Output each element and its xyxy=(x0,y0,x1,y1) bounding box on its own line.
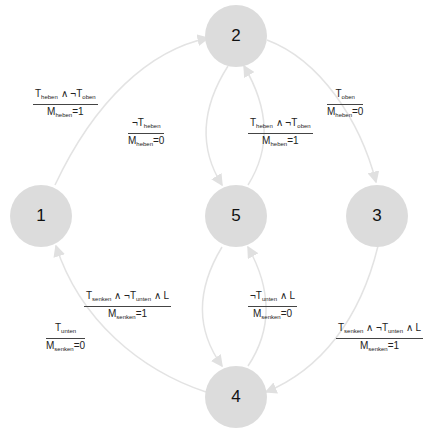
node-label: 3 xyxy=(372,206,381,226)
state-node-2[interactable]: 2 xyxy=(205,5,267,67)
edge-label-5-4: Tsenken ∧ ¬Tunten ∧ L Msenken=1 xyxy=(84,290,171,323)
state-node-3[interactable]: 3 xyxy=(346,185,408,247)
node-label: 5 xyxy=(231,206,240,226)
node-label: 4 xyxy=(231,387,240,407)
state-node-1[interactable]: 1 xyxy=(10,185,72,247)
edge-5-4 xyxy=(203,247,223,366)
edge-label-4-5: ¬Tunten ∧ L Msenken=0 xyxy=(248,290,297,323)
edge-label-2-5: ¬Theben Mheben=0 xyxy=(128,117,164,150)
node-label: 2 xyxy=(231,26,240,46)
state-node-5[interactable]: 5 xyxy=(205,185,267,247)
edge-label-2-3: Toben Mheben=0 xyxy=(327,88,363,121)
edge-label-3-4: Tsenken ∧ ¬Tunten ∧ L Msenken=1 xyxy=(336,322,423,355)
edge-label-5-2: Theben ∧ ¬Toben Mheben=1 xyxy=(248,117,313,150)
edge-2-5 xyxy=(206,66,228,185)
node-label: 1 xyxy=(36,206,45,226)
state-node-4[interactable]: 4 xyxy=(205,366,267,428)
edge-label-4-1: Tunten Msenken=0 xyxy=(46,322,85,355)
edge-label-1-2: Theben ∧ ¬Toben Mheben=1 xyxy=(33,88,98,121)
